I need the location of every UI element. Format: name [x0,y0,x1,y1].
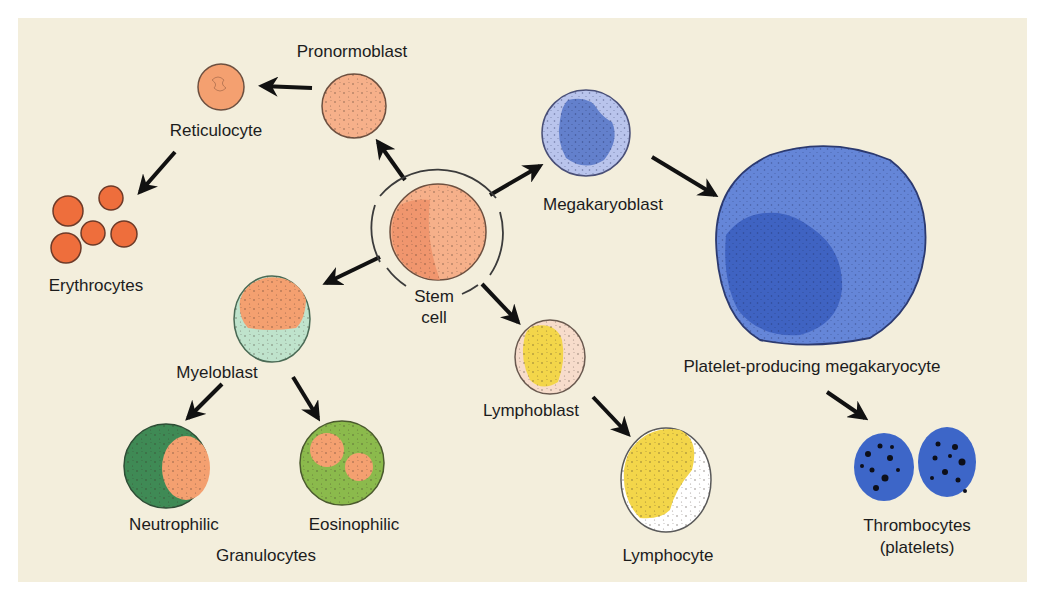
pronormoblast-label: Pronormoblast [297,42,408,61]
arrow-pronormoblast-to-reticulocyte [262,86,312,88]
neutrophilic-label: Neutrophilic [129,515,219,534]
thrombocytes-label: Thrombocytes [863,516,971,535]
eosinophilic-label: Eosinophilic [309,515,400,534]
myeloblast-label: Myeloblast [176,363,258,382]
lymphocyte-label: Lymphocyte [622,546,713,565]
thrombocytes-label-2: (platelets) [880,538,955,557]
lymphoblast-label: Lymphoblast [483,401,579,420]
erythrocyte [53,196,83,226]
erythrocyte [51,233,81,263]
hematopoiesis-diagram: Stem cell Pronormoblast Reticulocyte Ery… [0,0,1045,594]
platelet [918,427,976,497]
erythrocyte [111,221,137,247]
reticulocyte-label: Reticulocyte [170,121,263,140]
erythrocyte [81,221,105,245]
erythrocytes-label: Erythrocytes [49,276,143,295]
megakaryoblast-label: Megakaryoblast [543,195,663,214]
granulocytes-label: Granulocytes [216,546,316,565]
erythrocyte [99,186,123,210]
stem-cell-label: Stem [414,287,454,306]
megakaryocyte-label: Platelet-producing megakaryocyte [683,357,940,376]
stem-cell-label-2: cell [421,308,447,327]
